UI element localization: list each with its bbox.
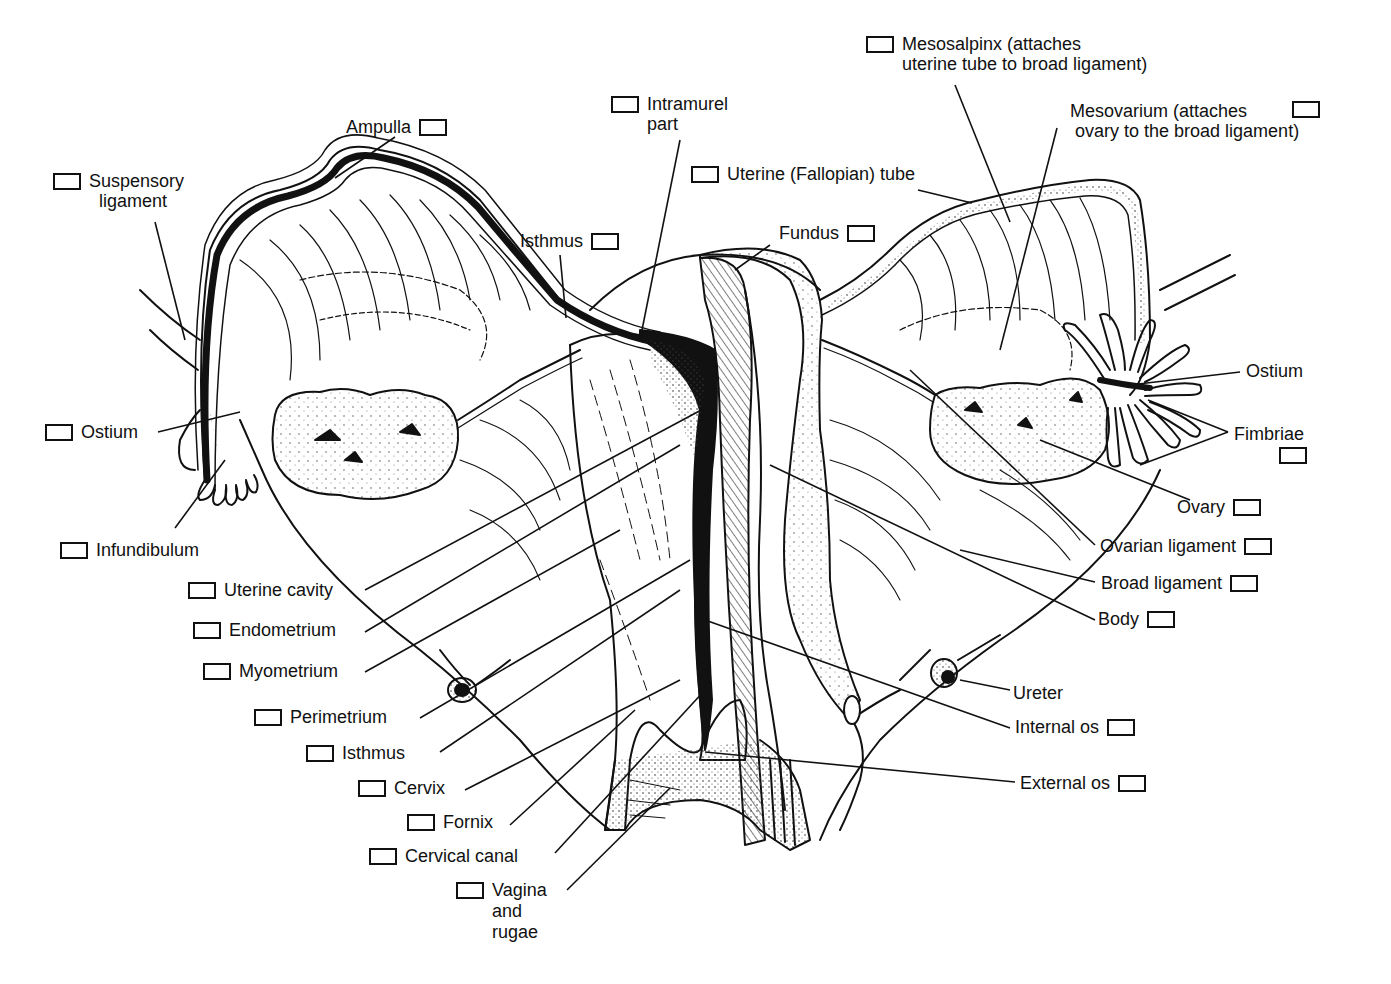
label-cervical-canal: Cervical canal	[369, 846, 518, 866]
broad-ligament-outline	[262, 470, 610, 830]
label-myometrium: Myometrium	[203, 661, 338, 681]
label-ostium-left: Ostium	[45, 422, 138, 442]
label-text: Isthmus	[342, 743, 405, 763]
label-text: Ostium	[81, 422, 138, 442]
label-text: Internal os	[1015, 717, 1099, 737]
answer-box-body[interactable]	[1147, 611, 1175, 628]
label-text: Intramurel part	[647, 94, 728, 134]
answer-box-internal-os[interactable]	[1107, 719, 1135, 736]
label-text: Mesovarium (attaches ovary to the broad …	[1070, 101, 1299, 141]
label-text: Broad ligament	[1101, 573, 1222, 593]
anatomy-illustration	[0, 0, 1391, 984]
label-text: Fimbriae	[1234, 424, 1304, 444]
answer-box-ampulla[interactable]	[419, 119, 447, 136]
answer-box-suspensory-ligament[interactable]	[53, 173, 81, 190]
label-text: Suspensory ligament	[89, 171, 184, 211]
label-ostium-right: Ostium	[1246, 361, 1303, 381]
label-cervix: Cervix	[358, 778, 445, 798]
label-text: Myometrium	[239, 661, 338, 681]
answer-box-uterine-cavity[interactable]	[188, 582, 216, 599]
label-text: Cervix	[394, 778, 445, 798]
label-text: Fornix	[443, 812, 493, 832]
label-intramural-part: Intramurel part	[611, 94, 728, 134]
answer-box-isthmus-uterus[interactable]	[306, 745, 334, 762]
label-text: Body	[1098, 609, 1139, 629]
answer-box-broad-ligament[interactable]	[1230, 575, 1258, 592]
label-vagina-rugae: Vagina and rugae	[456, 880, 547, 943]
label-body: Body	[1098, 609, 1175, 629]
label-isthmus-uterus: Isthmus	[306, 743, 405, 763]
answer-box-infundibulum[interactable]	[60, 542, 88, 559]
answer-box-fimbriae[interactable]	[1279, 447, 1307, 464]
answer-box-fornix[interactable]	[407, 814, 435, 831]
label-text: Cervical canal	[405, 846, 518, 866]
label-perimetrium: Perimetrium	[254, 707, 387, 727]
answer-box-external-os[interactable]	[1118, 775, 1146, 792]
label-text: Fundus	[779, 223, 839, 243]
answer-box-isthmus-tube[interactable]	[591, 233, 619, 250]
label-text: Endometrium	[229, 620, 336, 640]
label-suspensory-ligament: Suspensory ligament	[53, 171, 184, 211]
right-ovary	[930, 379, 1109, 484]
label-fornix: Fornix	[407, 812, 493, 832]
vagina	[605, 740, 810, 850]
label-endometrium: Endometrium	[193, 620, 336, 640]
label-text: Uterine cavity	[224, 580, 333, 600]
label-mesosalpinx: Mesosalpinx (attaches uterine tube to br…	[866, 34, 1147, 74]
answer-box-cervical-canal[interactable]	[369, 848, 397, 865]
answer-box-mesovarium[interactable]	[1292, 101, 1320, 118]
label-ureter: Ureter	[1013, 683, 1063, 703]
answer-box-myometrium[interactable]	[203, 663, 231, 680]
label-external-os: External os	[1020, 773, 1146, 793]
label-text: Ovarian ligament	[1100, 536, 1236, 556]
label-fimbriae: Fimbriae	[1234, 424, 1304, 444]
label-infundibulum: Infundibulum	[60, 540, 199, 560]
answer-box-ovarian-ligament[interactable]	[1244, 538, 1272, 555]
label-uterine-tube: Uterine (Fallopian) tube	[691, 164, 915, 184]
label-text: Ovary	[1177, 497, 1225, 517]
left-ovary	[273, 389, 459, 499]
label-text: Isthmus	[520, 231, 583, 251]
answer-box-fundus[interactable]	[847, 225, 875, 242]
label-ovarian-ligament: Ovarian ligament	[1100, 536, 1272, 556]
label-text: External os	[1020, 773, 1110, 793]
label-ovary: Ovary	[1177, 497, 1261, 517]
label-text: Ureter	[1013, 683, 1063, 703]
answer-box-ostium-left[interactable]	[45, 424, 73, 441]
label-internal-os: Internal os	[1015, 717, 1135, 737]
label-text: Mesosalpinx (attaches uterine tube to br…	[902, 34, 1147, 74]
label-fundus: Fundus	[779, 223, 875, 243]
answer-box-cervix[interactable]	[358, 780, 386, 797]
label-mesovarium: Mesovarium (attaches ovary to the broad …	[1070, 101, 1299, 141]
answer-box-vagina-rugae[interactable]	[456, 882, 484, 899]
answer-box-ovary[interactable]	[1233, 499, 1261, 516]
label-isthmus-tube: Isthmus	[520, 231, 619, 251]
label-uterine-cavity: Uterine cavity	[188, 580, 333, 600]
label-broad-ligament: Broad ligament	[1101, 573, 1258, 593]
answer-box-perimetrium[interactable]	[254, 709, 282, 726]
label-ampulla: Ampulla	[346, 117, 447, 137]
label-text: Perimetrium	[290, 707, 387, 727]
answer-box-mesosalpinx[interactable]	[866, 36, 894, 53]
answer-box-intramural-part[interactable]	[611, 96, 639, 113]
label-text: Vagina and rugae	[492, 880, 547, 943]
label-text: Infundibulum	[96, 540, 199, 560]
label-text: Ostium	[1246, 361, 1303, 381]
answer-box-uterine-tube[interactable]	[691, 166, 719, 183]
label-text: Ampulla	[346, 117, 411, 137]
label-text: Uterine (Fallopian) tube	[727, 164, 915, 184]
answer-box-endometrium[interactable]	[193, 622, 221, 639]
